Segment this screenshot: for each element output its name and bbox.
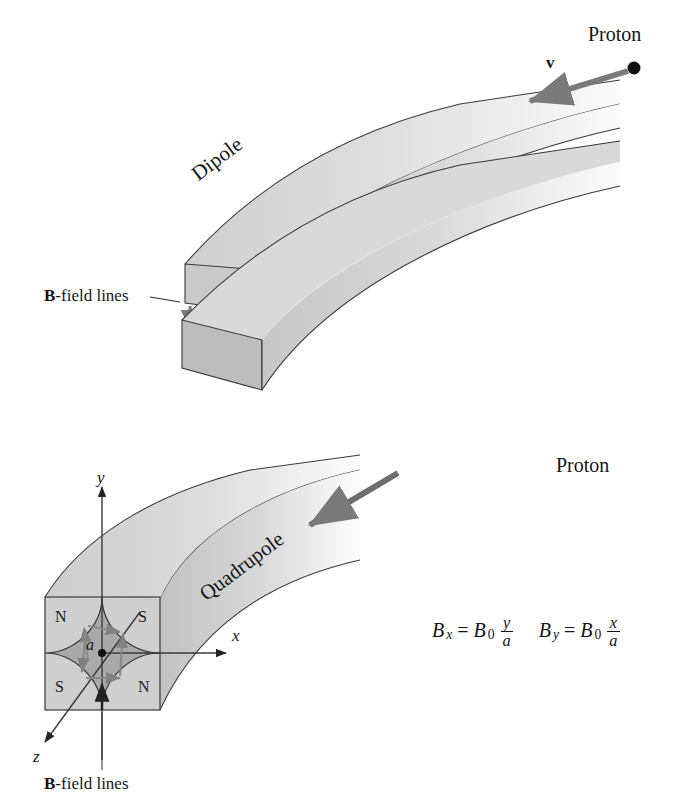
aperture-radius-label: a xyxy=(86,637,94,653)
y-axis-label: y xyxy=(97,469,105,486)
by-denominator: a xyxy=(607,631,619,649)
pole-label-bottom-left: S xyxy=(55,678,64,696)
z-axis-label: z xyxy=(33,748,40,765)
field-formulas: Bx = B0 y a By = B0 x a xyxy=(432,613,620,648)
pole-label-bottom-right: N xyxy=(138,678,150,696)
formula-by: By = B0 x a xyxy=(539,613,620,648)
proton-label-dipole: Proton xyxy=(588,24,641,44)
formula-bx: Bx = B0 y a xyxy=(432,613,513,648)
velocity-label: v xyxy=(546,54,555,71)
bx-denominator: a xyxy=(501,631,513,649)
by-numerator: x xyxy=(608,614,619,631)
dipole-magnet xyxy=(150,62,641,391)
bx-rhs-sub: 0 xyxy=(488,627,495,643)
bx-lhs-var: B xyxy=(432,619,444,642)
quadrupole-center-dot xyxy=(98,649,106,657)
bx-numerator: y xyxy=(501,614,512,631)
x-axis-label: x xyxy=(232,627,240,644)
proton-label-quadrupole: Proton xyxy=(556,455,609,475)
bfield-rest-dipole: -field lines xyxy=(55,286,128,305)
bfield-lines-label-quadrupole: B-field lines xyxy=(44,775,129,792)
bfield-leader-dipole xyxy=(150,297,180,302)
bfield-rest-quadrupole: -field lines xyxy=(55,774,128,793)
by-rhs-var: B xyxy=(580,619,592,642)
bx-lhs-sub: x xyxy=(446,627,452,643)
bfield-bold-b-quadrupole: B xyxy=(44,774,55,793)
pole-label-top-left: N xyxy=(55,608,67,626)
bfield-bold-b-dipole: B xyxy=(44,286,55,305)
bfield-lines-label-dipole: B-field lines xyxy=(44,287,129,304)
by-equals: = xyxy=(564,619,575,642)
by-fraction: x a xyxy=(607,614,619,649)
by-rhs-sub: 0 xyxy=(595,627,602,643)
bx-fraction: y a xyxy=(501,614,513,649)
figure-canvas xyxy=(0,0,689,812)
bx-equals: = xyxy=(457,619,468,642)
pole-label-top-right: S xyxy=(138,608,147,626)
by-lhs-var: B xyxy=(539,619,551,642)
by-lhs-sub: y xyxy=(553,627,559,643)
bx-rhs-var: B xyxy=(474,619,486,642)
proton-dot-dipole xyxy=(628,62,641,75)
physics-figure: Proton v Dipole B-field lines Proton Qua… xyxy=(0,0,689,812)
quadrupole-magnet xyxy=(45,455,398,770)
